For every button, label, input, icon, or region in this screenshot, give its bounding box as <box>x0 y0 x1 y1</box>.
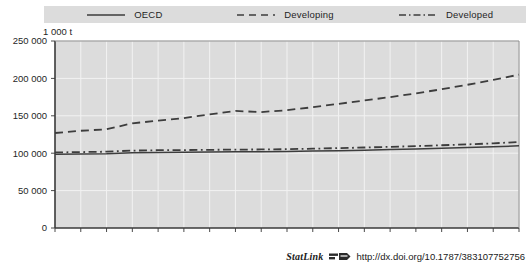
x-tick-label: 2009 <box>303 235 323 236</box>
y-axis-tick-labels: 050 000100 000150 000200 000250 000 <box>13 38 47 233</box>
x-tick-label: 2006 <box>225 235 245 236</box>
y-tick-label: 150 000 <box>13 110 47 121</box>
x-tick-label: 2008 <box>277 235 297 236</box>
y-tick-label: 100 000 <box>13 148 47 159</box>
y-tick-label: 200 000 <box>13 73 47 84</box>
dashed-line-icon <box>236 10 276 20</box>
x-tick-label: 2005 <box>200 235 220 236</box>
legend-label-developing: Developing <box>284 9 334 20</box>
chart-legend: OECD Developing Developed <box>44 6 526 23</box>
legend-label-developed: Developed <box>446 9 493 20</box>
source-row: StatLink http://dx.doi.org/10.1787/38310… <box>286 247 525 265</box>
legend-item-oecd: OECD <box>44 9 205 20</box>
x-tick-label: 2014 <box>432 235 452 236</box>
x-tick-label: 2001 <box>97 235 117 236</box>
y-axis-unit-label: 1 000 t <box>43 26 72 37</box>
x-tick-label: 2004 <box>174 235 194 236</box>
x-tick-label: 2007 <box>251 235 271 236</box>
line-chart-svg: 050 000100 000150 000200 000250 000 1999… <box>0 38 530 236</box>
x-axis-tick-labels: 1999200020012002200320042005200620072008… <box>45 235 529 236</box>
x-tick-label: 2015 <box>457 235 477 236</box>
x-tick-label: 2016 <box>483 235 503 236</box>
statlink-label: StatLink <box>286 251 323 262</box>
y-tick-label: 50 000 <box>18 185 47 196</box>
legend-item-developed: Developed <box>365 9 526 20</box>
legend-item-developing: Developing <box>205 9 366 20</box>
x-tick-label: 1999 <box>45 235 65 236</box>
statlink-glyph-icon <box>329 247 351 265</box>
x-tick-label: 2013 <box>406 235 426 236</box>
chart-plot-area: 050 000100 000150 000200 000250 000 1999… <box>0 38 530 236</box>
x-tick-label: 2011 <box>355 235 374 236</box>
x-tick-label: 2000 <box>71 235 91 236</box>
y-tick-label: 250 000 <box>13 38 47 46</box>
x-tick-label: 2017 <box>509 235 529 236</box>
y-tick-label: 0 <box>42 222 47 233</box>
legend-label-oecd: OECD <box>134 9 162 20</box>
x-tick-label: 2010 <box>329 235 349 236</box>
dash-dot-line-icon <box>398 10 438 20</box>
source-url[interactable]: http://dx.doi.org/10.1787/383107752756 <box>356 251 525 262</box>
x-tick-label: 2002 <box>122 235 142 236</box>
x-tick-label: 2003 <box>148 235 168 236</box>
x-tick-label: 2012 <box>380 235 400 236</box>
solid-line-icon <box>86 10 126 20</box>
